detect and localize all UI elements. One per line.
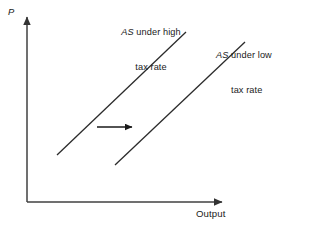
x-axis-label: Output xyxy=(196,208,225,220)
as-low-tax-label-rest: under low xyxy=(228,50,271,60)
as-low-tax-abbrev: AS xyxy=(216,50,228,60)
as-high-tax-label-rest: under high xyxy=(134,27,181,37)
y-axis-label: P xyxy=(8,6,14,18)
as-high-tax-abbrev: AS xyxy=(121,27,133,37)
as-curve-shift-diagram: P Output AS under high tax rate AS under… xyxy=(0,0,314,230)
as-low-tax-label: AS under low tax rate xyxy=(216,27,308,119)
as-low-tax-label-line-2: tax rate xyxy=(216,85,308,97)
as-low-tax-label-line-1: AS under low xyxy=(216,50,308,62)
as-high-tax-label-line-2: tax rate xyxy=(108,62,194,74)
as-high-tax-label: AS under high tax rate xyxy=(108,4,194,96)
as-high-tax-label-line-1: AS under high xyxy=(108,27,194,39)
